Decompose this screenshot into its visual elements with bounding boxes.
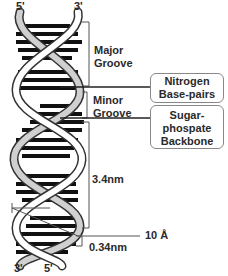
strand-end-top-right: 3' bbox=[74, 0, 83, 13]
strand-end-bottom-left: 3' bbox=[14, 262, 23, 275]
pitch-bracket bbox=[82, 122, 89, 228]
nitrogen-base-pairs-callout: Nitrogen Base-pairs bbox=[150, 73, 224, 103]
strand-end-top-left: 5' bbox=[16, 0, 25, 13]
strand-end-bottom-right: 5' bbox=[44, 262, 53, 275]
base-spacing-label: 0.34nm bbox=[89, 241, 127, 254]
minor-groove-label: Minor Groove bbox=[93, 94, 132, 120]
sugar-phosphate-backbone-callout: Sugar- phospate Backbone bbox=[150, 105, 224, 149]
pitch-label: 3.4nm bbox=[92, 173, 124, 186]
major-groove-label: Major Groove bbox=[94, 44, 133, 70]
major-groove-bracket bbox=[82, 22, 89, 86]
diameter-label: 10 Å bbox=[145, 229, 168, 242]
